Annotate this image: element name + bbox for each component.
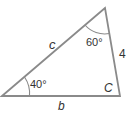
angle-arc-top (85, 25, 110, 34)
side-label-c: c (49, 37, 56, 52)
side-label-b: b (58, 99, 65, 113)
angle-label-top: 60° (86, 36, 103, 48)
triangle (2, 8, 120, 96)
triangle-diagram: c 4 b 40° 60° C (0, 0, 139, 121)
angle-label-right: C (104, 81, 113, 95)
angle-label-left: 40° (30, 78, 47, 90)
side-label-a: 4 (119, 47, 126, 61)
angle-arc-left (25, 77, 30, 96)
